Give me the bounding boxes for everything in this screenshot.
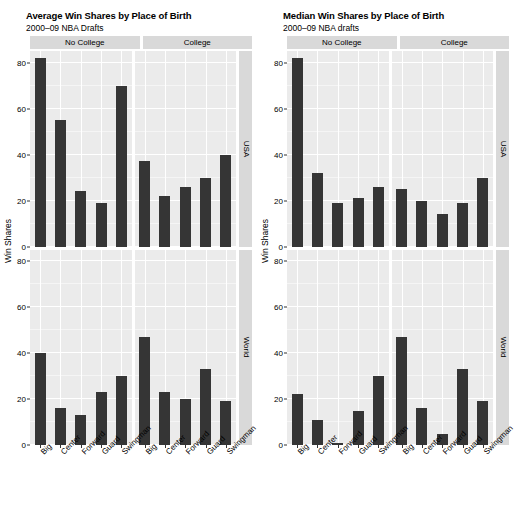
x-tick-label: Guard [462, 450, 468, 456]
y-tick-label: 0 [22, 242, 26, 251]
bar-series [135, 51, 237, 247]
column-strip-label: No College [30, 36, 140, 49]
panel-row: USA [30, 51, 252, 247]
x-tick-label: Big [39, 450, 45, 456]
y-tick-label: 40 [274, 349, 283, 358]
facet-panel [287, 51, 389, 247]
bar-swingman [116, 86, 127, 247]
bar-series [392, 51, 494, 247]
bar-forward [437, 214, 448, 246]
bar-center [55, 120, 66, 246]
panel-rows-median: USAWorld [287, 51, 509, 445]
x-axis-group: BigCenterForwardGuardSwingman [135, 445, 237, 507]
bar-series [287, 250, 389, 446]
bar-series [392, 250, 494, 446]
y-tick-label: 40 [17, 349, 26, 358]
x-tick-label: Guard [205, 450, 211, 456]
panel-row: World [30, 250, 252, 446]
y-tick-label: 40 [17, 150, 26, 159]
chart-page: Average Win Shares by Place of Birth 200… [0, 0, 515, 512]
x-tick-label: Big [296, 450, 302, 456]
y-tick-label: 60 [274, 104, 283, 113]
facet-panel [392, 51, 494, 247]
bar-center [55, 408, 66, 445]
y-tick-label: 20 [17, 196, 26, 205]
bar-forward [332, 203, 343, 247]
bar-forward [180, 187, 191, 247]
x-tick-label: Forward [441, 450, 447, 456]
x-axis-group: BigCenterForwardGuardSwingman [392, 445, 494, 507]
chart-subtitle-median: 2000–09 NBA drafts [283, 23, 359, 33]
y-tick-label: 0 [279, 242, 283, 251]
page-title: Average Win Shares by Place of Birth [26, 10, 191, 21]
page-title-median: Median Win Shares by Place of Birth [283, 10, 444, 21]
panel-grid-median: No CollegeCollege USAWorld [287, 36, 509, 445]
y-axis-title-median: Win Shares [260, 211, 270, 271]
chart-average: Average Win Shares by Place of Birth 200… [0, 0, 257, 512]
panel-rows: USAWorld [30, 51, 252, 445]
x-tick-label: Big [401, 450, 407, 456]
bar-center [312, 173, 323, 247]
bar-swingman [477, 178, 488, 247]
y-tick-label: 80 [17, 58, 26, 67]
y-tick-label: 80 [274, 257, 283, 266]
facet-panel [135, 51, 237, 247]
y-tick-label: 0 [22, 441, 26, 450]
y-axis-title: Win Shares [3, 211, 13, 271]
column-strip-label: College [143, 36, 253, 49]
row-strip-text: USA [241, 141, 250, 157]
facet-panel [287, 250, 389, 446]
column-strips: No CollegeCollege [30, 36, 265, 49]
x-tick-label: Guard [100, 450, 106, 456]
bar-guard [96, 203, 107, 247]
y-tick-label: 0 [279, 441, 283, 450]
x-axis-group: BigCenterForwardGuardSwingman [287, 445, 389, 507]
column-strip-label: No College [287, 36, 397, 49]
row-strip-label: USA [239, 51, 252, 247]
bar-center [312, 420, 323, 445]
bar-big [139, 161, 150, 246]
bar-swingman [220, 155, 231, 247]
column-strips-median: No CollegeCollege [287, 36, 515, 49]
y-tick-label: 20 [274, 196, 283, 205]
bar-swingman [116, 376, 127, 445]
panel-grid-average: No CollegeCollege USAWorld [30, 36, 252, 445]
x-tick-label: Guard [357, 450, 363, 456]
y-tick-label: 80 [17, 257, 26, 266]
row-strip-text: World [241, 337, 250, 358]
x-tick-label: Swingman [120, 450, 126, 456]
bar-big [292, 394, 303, 445]
x-axis-left: BigCenterForwardGuardSwingmanBigCenterFo… [30, 445, 252, 507]
x-tick-label: Swingman [377, 450, 383, 456]
bar-guard [200, 178, 211, 247]
x-tick-label: Center [316, 450, 322, 456]
column-strip-label: College [400, 36, 510, 49]
y-tick-label: 60 [17, 104, 26, 113]
panel-row: World [287, 250, 509, 446]
x-axis-group: BigCenterForwardGuardSwingman [30, 445, 132, 507]
x-axis-right: BigCenterForwardGuardSwingmanBigCenterFo… [287, 445, 509, 507]
facet-panel [30, 250, 132, 446]
x-tick-label: Center [164, 450, 170, 456]
bar-center [416, 408, 427, 445]
x-tick-label: Center [59, 450, 65, 456]
x-tick-label: Big [144, 450, 150, 456]
row-strip-label: World [496, 250, 509, 446]
bar-series [287, 51, 389, 247]
chart-median: Median Win Shares by Place of Birth 2000… [257, 0, 514, 512]
bar-center [416, 201, 427, 247]
y-tick-label: 20 [274, 395, 283, 404]
row-strip-text: USA [498, 141, 507, 157]
bar-big [35, 353, 46, 445]
bar-series [30, 51, 132, 247]
row-strip-label: USA [496, 51, 509, 247]
facet-panel [135, 250, 237, 446]
facet-panel [392, 250, 494, 446]
row-strip-label: World [239, 250, 252, 446]
y-tick-label: 60 [17, 303, 26, 312]
chart-subtitle: 2000–09 NBA Drafts [26, 23, 104, 33]
bar-big [292, 58, 303, 247]
x-tick-label: Forward [80, 450, 86, 456]
facet-panel [30, 51, 132, 247]
bar-big [396, 189, 407, 247]
